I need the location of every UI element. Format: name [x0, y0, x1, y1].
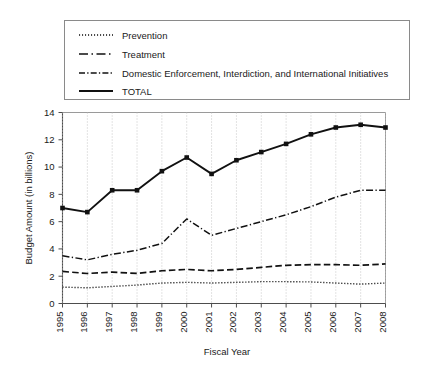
y-tick-label: 4: [49, 243, 54, 254]
x-tick-label: 2001: [203, 312, 214, 333]
data-point-marker: [209, 172, 214, 177]
x-axis-title: Fiscal Year: [204, 346, 250, 357]
legend-label-prevention: Prevention: [122, 30, 167, 41]
data-point-marker: [110, 188, 115, 193]
x-tick-label: 2004: [277, 312, 288, 333]
x-tick-label: 2008: [377, 312, 388, 333]
series-line-domestic-enforcement: [63, 190, 386, 260]
legend-border: [65, 21, 410, 100]
x-tick-label: 1997: [103, 312, 114, 333]
series-line-total: [63, 125, 386, 212]
data-point-marker: [85, 210, 90, 215]
series-line-prevention: [63, 282, 386, 288]
data-point-marker: [135, 188, 140, 193]
series-line-treatment: [63, 264, 386, 274]
y-tick-label: 6: [49, 216, 54, 227]
y-tick-label: 10: [44, 161, 55, 172]
data-point-marker: [259, 150, 264, 155]
legend-label-domestic-enforcement: Domestic Enforcement, Interdiction, and …: [122, 68, 388, 79]
chart-series-layer: [60, 122, 388, 287]
data-point-marker: [60, 206, 65, 211]
data-point-marker: [309, 132, 314, 137]
x-tick-label: 2000: [178, 312, 189, 333]
x-tick-label: 2005: [302, 312, 313, 333]
x-tick-label: 1998: [128, 312, 139, 333]
legend-item-domestic-enforcement: Domestic Enforcement, Interdiction, and …: [79, 68, 388, 79]
plot-frame: [63, 113, 386, 304]
y-tick-label: 0: [49, 298, 54, 309]
data-point-marker: [383, 125, 388, 130]
x-tick-label: 1999: [153, 312, 164, 333]
legend-label-total: TOTAL: [122, 86, 152, 97]
y-tick-label: 2: [49, 271, 54, 282]
y-axis-title: Budget Amount (in billions): [23, 151, 34, 264]
y-tick-label: 14: [44, 107, 55, 118]
data-point-marker: [284, 142, 289, 147]
data-point-marker: [334, 125, 339, 130]
y-tick-label: 12: [44, 134, 55, 145]
data-point-marker: [358, 122, 363, 127]
data-point-marker: [234, 158, 239, 163]
x-tick-label: 2003: [252, 312, 263, 333]
chart-svg: Prevention Treatment Domestic Enforcemen…: [0, 0, 435, 371]
x-tick-label: 2006: [327, 312, 338, 333]
data-point-marker: [160, 169, 165, 174]
x-tick-label: 1996: [78, 312, 89, 333]
chart-legend: Prevention Treatment Domestic Enforcemen…: [65, 21, 410, 100]
y-tick-label: 8: [49, 189, 54, 200]
x-tick-label: 2002: [227, 312, 238, 333]
x-tick-label: 1995: [54, 312, 65, 333]
x-gridlines: [63, 113, 386, 304]
legend-label-treatment: Treatment: [122, 49, 165, 60]
x-ticks: 1995199619971998199920002001200220032004…: [54, 304, 388, 333]
chart-figure: Prevention Treatment Domestic Enforcemen…: [0, 0, 435, 371]
y-ticks: 02468101214: [44, 107, 63, 309]
data-point-marker: [184, 155, 189, 160]
x-tick-label: 2007: [352, 312, 363, 333]
